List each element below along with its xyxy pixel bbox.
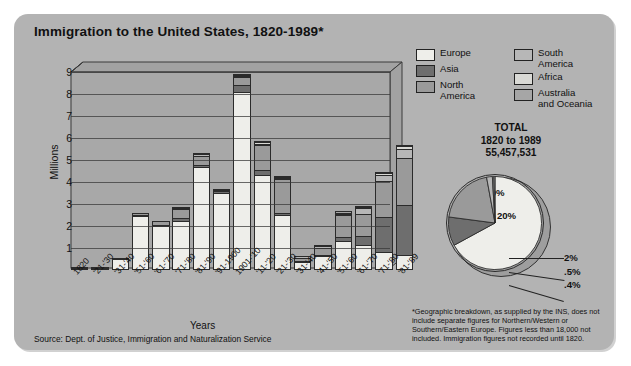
bar-segment-asia <box>233 85 250 92</box>
chart-title: Immigration to the United States, 1820-1… <box>34 24 323 39</box>
gridline <box>71 204 390 205</box>
gridline <box>71 138 390 139</box>
legend-item-africa[interactable]: Africa <box>514 72 609 85</box>
bar-segment-asia <box>396 205 413 256</box>
legend-column-left: EuropeAsiaNorthAmerica <box>416 48 508 104</box>
bar-segment-south-america <box>396 149 413 158</box>
legend-label: Australiaand Oceania <box>538 88 592 109</box>
footnote: *Geographic breakdown, as supplied by th… <box>412 308 612 344</box>
bar-segment-north-america <box>274 179 291 212</box>
gridline <box>71 72 390 73</box>
bar-segment-north-america <box>233 77 250 85</box>
legend-swatch-icon <box>514 49 533 61</box>
legend-item-north-america[interactable]: NorthAmerica <box>416 80 508 101</box>
pie-callout-line <box>509 272 564 281</box>
bar-column[interactable] <box>233 74 250 270</box>
legend-item-south-america[interactable]: SouthAmerica <box>514 48 609 69</box>
legend-item-australia-and-oceania[interactable]: Australiaand Oceania <box>514 88 609 109</box>
pie-callout-label: .5% <box>564 266 581 277</box>
gridline <box>71 94 390 95</box>
total-value: 55,457,531 <box>416 147 606 160</box>
pie-label: 20% <box>497 210 517 221</box>
legend-label: Asia <box>440 64 459 75</box>
bar-segment-north-america <box>355 214 372 236</box>
pie-chart: 67%10%20% 2%.5%.4% <box>446 174 550 278</box>
bar-segment-europe <box>233 92 250 270</box>
legend-swatch-icon <box>416 81 435 93</box>
legend-swatch-icon <box>514 73 533 85</box>
gridline <box>71 226 390 227</box>
legend-swatch-icon <box>416 65 435 77</box>
pie-callout-line <box>509 285 564 302</box>
bar-segment-south-america <box>375 175 392 182</box>
legend-label: NorthAmerica <box>440 80 475 101</box>
bar-segment-north-america <box>172 209 189 218</box>
bar-chart: 123456789 Millions <box>58 60 403 270</box>
pie-callout-line <box>509 258 564 259</box>
x-axis-title: Years <box>190 320 215 331</box>
source-note: Source: Dept. of Justice, Immigration an… <box>34 334 271 344</box>
y-axis-title: Millions <box>48 144 60 179</box>
legend-label: Africa <box>538 72 563 83</box>
pie-callout-label: 2% <box>564 252 578 263</box>
legend-column-right: SouthAmericaAfricaAustraliaand Oceania <box>514 48 609 112</box>
bar-segment-north-america <box>375 181 392 217</box>
legend-swatch-icon <box>514 89 533 101</box>
total-range: 1820 to 1989 <box>416 135 606 148</box>
bar-segment-asia <box>355 236 372 245</box>
pie-callout-label: .4% <box>564 279 581 290</box>
legend-item-asia[interactable]: Asia <box>416 64 508 77</box>
bar-segment-north-america <box>396 158 413 205</box>
gridline <box>71 160 390 161</box>
bar-series-container <box>71 72 416 270</box>
legend-label: Europe <box>440 48 471 59</box>
total-block: TOTAL 1820 to 1989 55,457,531 <box>416 122 606 160</box>
legend-item-europe[interactable]: Europe <box>416 48 508 61</box>
legend-swatch-icon <box>416 49 435 61</box>
bar-column[interactable] <box>396 145 413 270</box>
chart-card: Immigration to the United States, 1820-1… <box>14 14 614 350</box>
gridline <box>71 116 390 117</box>
bar-segment-north-america <box>254 145 271 170</box>
legend-label: SouthAmerica <box>538 48 573 69</box>
gridline <box>71 182 390 183</box>
total-label: TOTAL <box>416 122 606 135</box>
x-axis-labels: 1820'21-'30'31-'40'51-'60'61-'70'71-'80'… <box>71 270 421 316</box>
